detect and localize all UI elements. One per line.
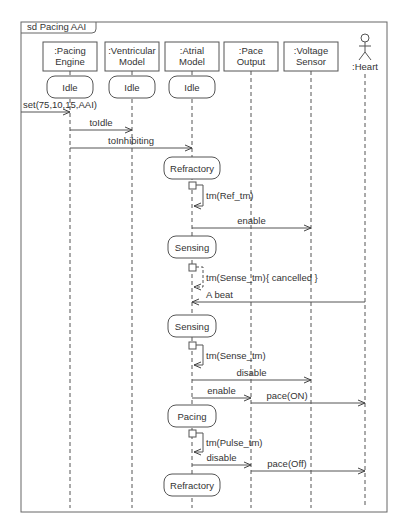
svg-text:pace(Off): pace(Off): [267, 458, 306, 469]
timer-start-icon: [189, 182, 196, 189]
lifeline-label: :Ventricular: [108, 45, 156, 56]
state-idle: Idle: [109, 76, 155, 98]
message-a-beat: A beat: [192, 289, 365, 302]
lifeline-label: :Pacing: [54, 45, 86, 56]
sequence-diagram: sd Pacing AAI :PacingEngine:VentricularM…: [0, 0, 406, 532]
state-idle: Idle: [47, 76, 93, 98]
svg-text:Idle: Idle: [124, 82, 139, 93]
svg-text:enable: enable: [237, 215, 266, 226]
lifeline-label: Output: [237, 56, 266, 67]
svg-text:Refractory: Refractory: [170, 163, 214, 174]
timer-start-icon: [189, 342, 196, 349]
svg-text:Idle: Idle: [184, 82, 199, 93]
timer-tm-sense-tm-: tm(Sense_tm){ cancelled }: [189, 264, 318, 287]
svg-text:Sensing: Sensing: [175, 242, 209, 253]
svg-text:Idle: Idle: [62, 82, 77, 93]
message-toidle: toIdle: [70, 117, 132, 130]
timer-start-icon: [189, 430, 196, 437]
message-pace-on-: pace(ON): [251, 390, 365, 403]
lifeline-label: :Voltage: [294, 45, 328, 56]
svg-text:Sensing: Sensing: [175, 321, 209, 332]
actor-icon: [359, 34, 371, 60]
lifeline-label: Sensor: [296, 56, 326, 67]
timer-tm-sense-tm-: tm(Sense_tm): [189, 342, 266, 365]
svg-text:disable: disable: [236, 367, 266, 378]
svg-text:enable: enable: [207, 385, 236, 396]
lifeline-label: Engine: [55, 56, 85, 67]
message-enable: enable: [192, 385, 251, 398]
svg-text:A beat: A beat: [206, 289, 233, 300]
state-refractory: Refractory: [164, 474, 220, 496]
message-toinhibiting: toInhibiting: [70, 135, 192, 148]
svg-text:toIdle: toIdle: [89, 117, 112, 128]
lifeline-vm: :VentricularModel: [105, 42, 159, 508]
svg-text:tm(Pulse_tm): tm(Pulse_tm): [206, 437, 262, 448]
lifeline-label: Model: [179, 56, 205, 67]
svg-text:tm(Sense_tm): tm(Sense_tm): [206, 272, 266, 283]
lifeline-label: :Heart: [352, 61, 378, 72]
svg-text:toInhibiting: toInhibiting: [108, 135, 154, 146]
state-refractory: Refractory: [164, 157, 220, 179]
lifeline-label: :Pace: [239, 45, 263, 56]
timer-tm-ref-tm-: tm(Ref_tm): [189, 182, 254, 206]
svg-text:disable: disable: [206, 452, 236, 463]
svg-text:{ cancelled }: { cancelled }: [266, 272, 318, 283]
state-sensing: Sensing: [168, 315, 216, 337]
state-pacing: Pacing: [168, 405, 216, 427]
svg-text:tm(Sense_tm): tm(Sense_tm): [206, 350, 266, 361]
message-pace-off-: pace(Off): [251, 458, 365, 471]
svg-text:tm(Ref_tm): tm(Ref_tm): [206, 190, 254, 201]
lifeline-label: :Atrial: [180, 45, 204, 56]
svg-text:Pacing: Pacing: [177, 411, 206, 422]
state-sensing: Sensing: [168, 236, 216, 258]
message-disable: disable: [192, 367, 311, 380]
svg-text:pace(ON): pace(ON): [266, 390, 307, 401]
svg-text:Refractory: Refractory: [170, 480, 214, 491]
timer-start-icon: [189, 264, 196, 271]
lifeline-ht: :Heart: [352, 34, 378, 508]
state-idle: Idle: [169, 76, 215, 98]
message-disable: disable: [192, 452, 251, 465]
svg-text:set(75,10,15,AAI): set(75,10,15,AAI): [23, 99, 97, 110]
message-set-75-10-15-aai-: set(75,10,15,AAI): [21, 99, 97, 112]
lifeline-label: Model: [119, 56, 145, 67]
frame-label: sd Pacing AAI: [27, 21, 86, 32]
timer-tm-pulse-tm-: tm(Pulse_tm): [189, 430, 262, 452]
